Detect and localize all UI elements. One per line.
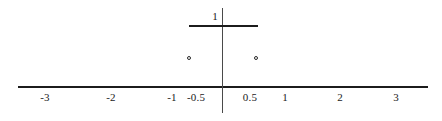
open-point-right-marker [254, 56, 258, 60]
horizontal-axis [18, 86, 428, 88]
x-tick-label: 2 [337, 91, 343, 103]
x-tick-label: -3 [40, 91, 50, 103]
x-tick-label: 3 [393, 91, 399, 103]
open-point-left-marker [187, 56, 191, 60]
x-tick-label: -1 [167, 91, 177, 103]
function-plot: 1 -3 -2 -1 -0.5 0.5 1 2 3 [0, 0, 442, 121]
x-tick-label: -2 [106, 91, 116, 103]
y-value-label-one: 1 [212, 10, 218, 22]
x-tick-label: -0.5 [187, 91, 205, 103]
vertical-axis [222, 8, 223, 113]
x-tick-label: 1 [282, 91, 288, 103]
plateau-segment [189, 25, 258, 27]
x-tick-label: 0.5 [243, 91, 257, 103]
